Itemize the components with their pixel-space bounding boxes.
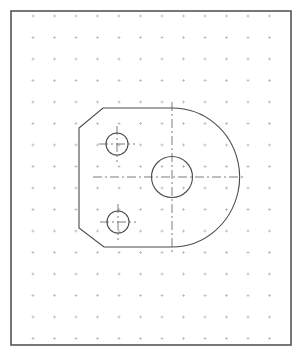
- technical-drawing-svg: Isometric dot-grid drawing sheet: [0, 0, 303, 359]
- drawing-canvas: Isometric dot-grid drawing sheet: [0, 0, 303, 359]
